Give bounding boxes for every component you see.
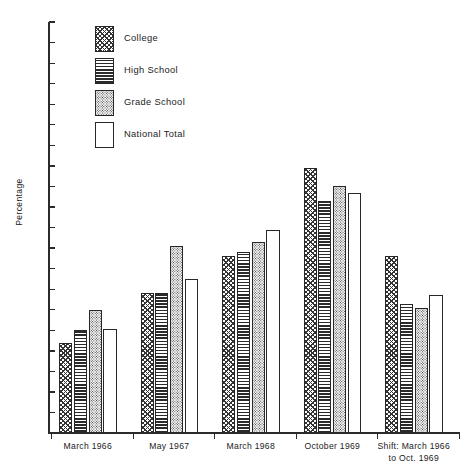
- bar: [170, 246, 183, 433]
- legend-swatch-high-school: [95, 58, 114, 84]
- bar: [318, 201, 331, 433]
- legend-swatch-college: [95, 26, 114, 52]
- bar: [385, 256, 398, 433]
- bar: [155, 293, 168, 433]
- bar: [59, 343, 72, 433]
- x-axis-tick-mark: [296, 433, 297, 439]
- legend-label: Grade School: [124, 97, 185, 107]
- bar: [252, 242, 265, 433]
- y-axis-title: Percentage: [14, 157, 24, 247]
- bar: [222, 256, 235, 433]
- x-axis-group-label-line: Shift: March 1966: [359, 441, 469, 453]
- bar-chart: Percentage 05101520253035404550556065707…: [0, 0, 473, 472]
- legend-label: College: [124, 33, 158, 43]
- x-axis-tick-mark: [51, 433, 52, 439]
- bar: [74, 330, 87, 433]
- bar: [266, 230, 279, 433]
- legend-item: Grade School: [95, 90, 285, 122]
- legend-swatch-grade-school: [95, 90, 114, 116]
- legend-item: High School: [95, 58, 285, 90]
- legend-item: National Total: [95, 122, 285, 154]
- bar: [237, 252, 250, 433]
- x-axis-line: [48, 432, 460, 434]
- x-axis-group-label: Shift: March 1966to Oct. 1969: [359, 441, 469, 464]
- bar: [304, 168, 317, 433]
- bar: [141, 293, 154, 433]
- bar: [415, 308, 428, 433]
- x-axis-tick-mark: [214, 433, 215, 439]
- bar: [429, 295, 442, 433]
- x-axis-tick-mark: [459, 433, 460, 439]
- x-axis-group-label-line: to Oct. 1969: [359, 453, 469, 465]
- bar: [348, 193, 361, 433]
- legend-item: College: [95, 26, 285, 58]
- bar: [400, 304, 413, 433]
- bar: [333, 186, 346, 433]
- legend: CollegeHigh SchoolGrade SchoolNational T…: [95, 26, 285, 154]
- bar: [103, 329, 116, 433]
- bar: [89, 310, 102, 433]
- x-axis-tick-mark: [377, 433, 378, 439]
- legend-label: National Total: [124, 129, 185, 139]
- legend-label: High School: [124, 65, 178, 75]
- legend-swatch-national-total: [95, 122, 114, 148]
- x-axis-tick-mark: [133, 433, 134, 439]
- bar: [185, 279, 198, 433]
